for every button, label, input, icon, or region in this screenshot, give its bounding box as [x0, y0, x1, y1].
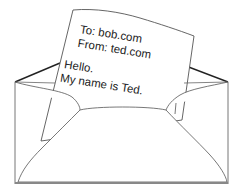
envelope-illustration: To: bob.com From: ted.com Hello. My name…	[0, 0, 239, 193]
